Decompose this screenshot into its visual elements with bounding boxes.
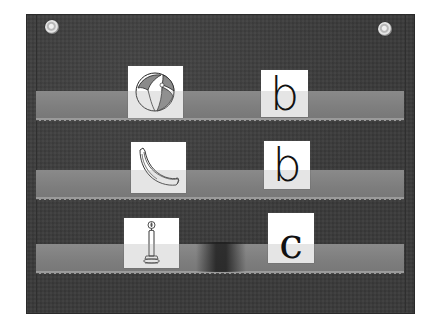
right-grommet-icon <box>378 22 392 36</box>
card-pocket-overlay <box>131 170 186 193</box>
letter-text: b <box>261 70 308 117</box>
picture-card-candle[interactable] <box>124 218 179 268</box>
letter-text: b <box>264 141 310 189</box>
pocket-seam <box>36 197 404 200</box>
card-pocket-overlay <box>124 244 179 268</box>
left-grommet-icon <box>45 20 59 34</box>
letter-text: c <box>268 213 314 263</box>
pocket-fold-shadow <box>196 242 246 272</box>
pocket-seam <box>36 118 404 121</box>
card-pocket-overlay <box>128 91 183 118</box>
picture-card-beach-ball[interactable] <box>128 66 183 118</box>
letter-card-c[interactable]: c <box>268 213 314 263</box>
letter-card-b[interactable]: b <box>261 70 308 117</box>
pocket-strip <box>36 170 404 197</box>
letter-card-b[interactable]: b <box>264 141 310 189</box>
pocket-strip <box>36 91 404 118</box>
picture-card-banana[interactable] <box>131 142 186 193</box>
